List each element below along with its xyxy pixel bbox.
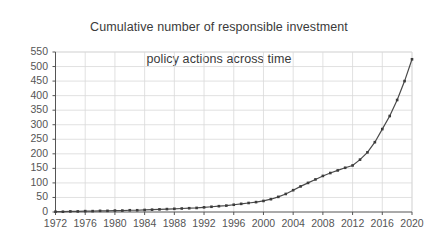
data-point: [173, 208, 176, 211]
tick-marks: [53, 52, 413, 215]
data-point: [277, 196, 280, 199]
data-point: [84, 210, 87, 213]
data-point: [411, 58, 414, 61]
y-tick-label: 300: [12, 118, 48, 130]
data-point: [136, 209, 139, 212]
y-tick-label: 50: [12, 190, 48, 202]
data-point: [322, 175, 325, 178]
data-point: [351, 164, 354, 167]
data-point: [151, 208, 154, 211]
y-tick-label: 100: [12, 176, 48, 188]
data-point: [284, 193, 287, 196]
data-point: [366, 151, 369, 154]
y-tick-label: 550: [12, 45, 48, 57]
x-tick-label: 2020: [392, 217, 432, 229]
data-point: [99, 210, 102, 213]
data-point: [76, 210, 79, 213]
data-point: [114, 209, 117, 212]
vertical-gridlines: [85, 52, 412, 212]
data-point: [374, 141, 377, 144]
y-tick-label: 150: [12, 161, 48, 173]
data-point: [299, 185, 302, 188]
data-point: [307, 182, 310, 185]
chart-container: Cumulative number of responsible investm…: [0, 0, 438, 248]
data-point: [225, 204, 228, 207]
data-point: [255, 201, 258, 204]
data-point: [262, 200, 265, 203]
data-point: [69, 210, 72, 213]
data-point: [381, 128, 384, 131]
y-tick-label: 450: [12, 74, 48, 86]
data-point: [106, 210, 109, 213]
data-point: [62, 210, 65, 213]
data-point: [166, 208, 169, 211]
data-point: [91, 210, 94, 213]
data-point: [195, 207, 198, 210]
y-tick-label: 500: [12, 60, 48, 72]
data-point: [396, 99, 399, 102]
y-tick-label: 250: [12, 132, 48, 144]
data-point: [128, 209, 131, 212]
data-point: [232, 203, 235, 206]
data-point: [329, 172, 332, 175]
data-point: [359, 158, 362, 161]
data-point: [336, 169, 339, 172]
y-tick-label: 0: [12, 205, 48, 217]
data-point: [54, 210, 57, 213]
y-tick-label: 350: [12, 103, 48, 115]
data-point: [218, 205, 221, 208]
data-point: [180, 207, 183, 210]
data-point: [210, 205, 213, 208]
data-point: [344, 166, 347, 169]
data-point: [403, 80, 406, 83]
data-point: [240, 203, 243, 206]
data-point: [247, 202, 250, 205]
data-point: [388, 115, 391, 118]
data-point: [314, 178, 317, 181]
data-point: [188, 207, 191, 210]
plot-area: [0, 0, 438, 248]
data-point: [292, 189, 295, 192]
data-point: [158, 208, 161, 211]
data-point: [270, 198, 273, 201]
y-tick-label: 400: [12, 89, 48, 101]
data-point: [203, 206, 206, 209]
data-point: [121, 209, 124, 212]
y-tick-label: 200: [12, 147, 48, 159]
data-point: [143, 209, 146, 212]
